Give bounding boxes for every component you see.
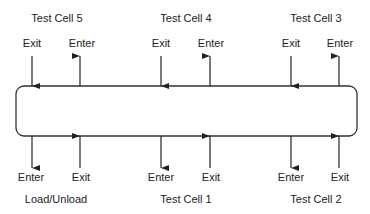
port-label-enter: Enter [148, 171, 174, 183]
port-label-exit: Exit [72, 171, 90, 183]
cell-label-test-cell-4: Test Cell 4 [160, 12, 211, 24]
cell-label-test-cell-5: Test Cell 5 [31, 12, 82, 24]
port-label-exit: Exit [23, 37, 41, 49]
cell-label-test-cell-2: Test Cell 2 [290, 193, 341, 205]
port-label-enter: Enter [18, 171, 44, 183]
port-label-enter: Enter [69, 37, 95, 49]
cell-label-load-unload: Load/Unload [25, 193, 87, 205]
port-label-enter: Enter [278, 171, 304, 183]
cell-label-test-cell-3: Test Cell 3 [290, 12, 341, 24]
port-label-exit: Exit [331, 171, 349, 183]
arrows-group [32, 56, 339, 168]
port-label-enter: Enter [198, 37, 224, 49]
diagram-canvas [0, 0, 370, 214]
port-label-exit: Exit [282, 37, 300, 49]
cell-label-test-cell-1: Test Cell 1 [160, 193, 211, 205]
port-label-exit: Exit [202, 171, 220, 183]
port-label-exit: Exit [152, 37, 170, 49]
conveyor-loop-box [16, 86, 357, 136]
port-label-enter: Enter [327, 37, 353, 49]
